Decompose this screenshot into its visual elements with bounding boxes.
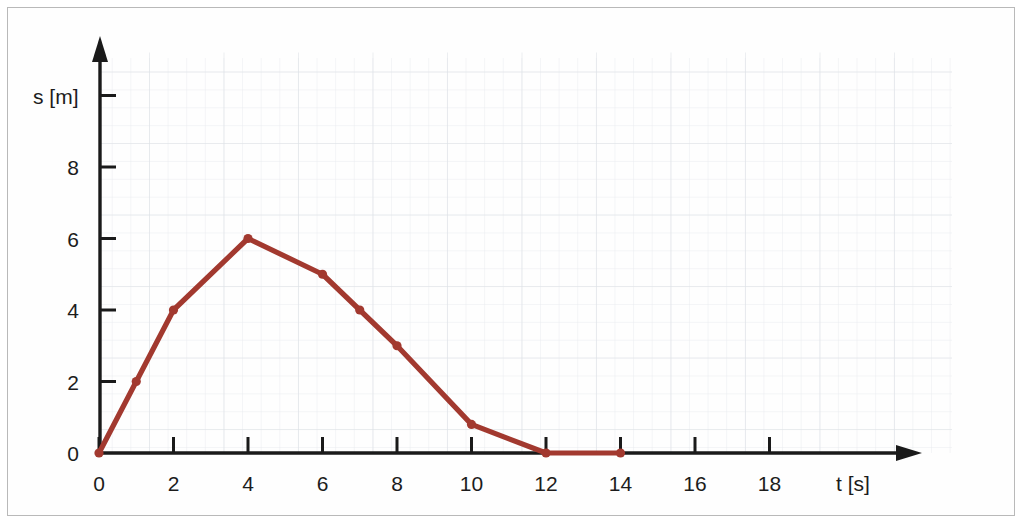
data-point: [541, 448, 550, 457]
data-point: [132, 377, 141, 386]
data-point: [318, 270, 327, 279]
scanned-page: 02468 024681012141618 s [m] t [s]: [0, 0, 1022, 523]
x-tick-label: 18: [758, 472, 781, 495]
y-tick-label: 2: [67, 371, 79, 394]
x-tick-label: 0: [93, 472, 105, 495]
y-tick-label: 6: [67, 228, 79, 251]
grid-layer: [100, 53, 952, 454]
x-tick-label: 16: [683, 472, 706, 495]
x-tick-labels: 024681012141618: [93, 472, 781, 495]
data-point: [243, 234, 252, 243]
x-tick-label: 4: [242, 472, 254, 495]
y-tick-label: 0: [67, 442, 79, 465]
x-tick-label: 2: [168, 472, 180, 495]
x-tick-label: 12: [534, 472, 557, 495]
x-tick-label: 10: [460, 472, 483, 495]
data-point: [169, 305, 178, 314]
x-tick-label: 14: [609, 472, 633, 495]
data-point: [392, 341, 401, 350]
data-point: [94, 448, 103, 457]
y-tick-label: 8: [67, 156, 79, 179]
y-tick-label: 4: [67, 299, 79, 322]
x-axis-label: t [s]: [836, 472, 870, 495]
x-tick-label: 6: [317, 472, 329, 495]
x-tick-label: 8: [391, 472, 403, 495]
data-point: [467, 420, 476, 429]
y-axis-label: s [m]: [33, 85, 79, 108]
data-point: [616, 448, 625, 457]
data-point: [355, 305, 364, 314]
y-tick-labels: 02468: [67, 156, 79, 465]
line-chart-svg: 02468 024681012141618 s [m] t [s]: [0, 0, 1022, 523]
chart-container: 02468 024681012141618 s [m] t [s]: [0, 0, 1022, 523]
